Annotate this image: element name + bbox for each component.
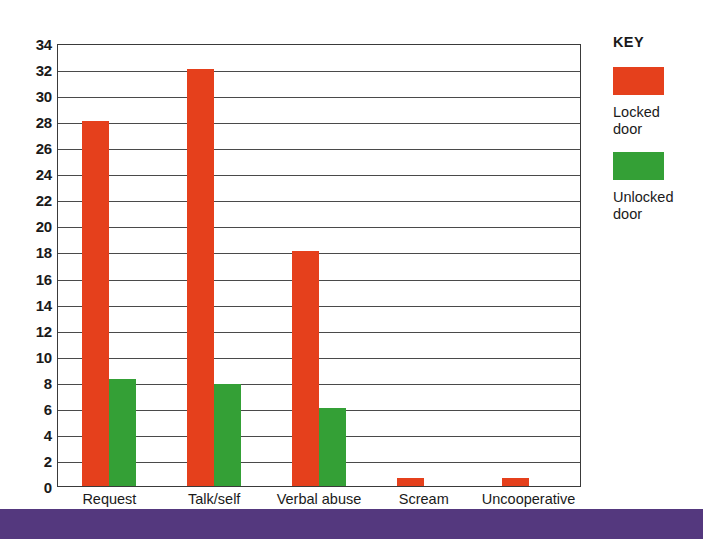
- y-tick-label: 34: [8, 37, 52, 52]
- y-tick-label: 18: [8, 245, 52, 260]
- y-tick-label: 6: [8, 402, 52, 417]
- gridline: [58, 97, 580, 98]
- y-tick-label: 16: [8, 272, 52, 287]
- y-tick-label: 32: [8, 63, 52, 78]
- chart-legend: KEY Lockeddoor Unlockeddoor: [613, 34, 699, 237]
- gridline: [58, 71, 580, 72]
- x-tick-label: Uncooperative: [476, 492, 581, 507]
- gridline: [58, 358, 580, 359]
- gridline: [58, 306, 580, 307]
- x-tick-label: Verbal abuse: [267, 492, 372, 507]
- gridline: [58, 384, 580, 385]
- gridline: [58, 227, 580, 228]
- gridline: [58, 123, 580, 124]
- locked-door-swatch: [613, 67, 664, 95]
- y-tick-label: 30: [8, 89, 52, 104]
- page-footer-band: [0, 509, 703, 539]
- gridline: [58, 436, 580, 437]
- x-tick-label: Scream: [371, 492, 476, 507]
- x-tick-label: Talk/self: [162, 492, 267, 507]
- legend-title: KEY: [613, 34, 699, 50]
- x-tick-label: Request: [57, 492, 162, 507]
- legend-label-unlocked-door: Unlockeddoor: [613, 189, 697, 223]
- y-tick-label: 8: [8, 376, 52, 391]
- gridline: [58, 410, 580, 411]
- y-tick-label: 28: [8, 115, 52, 130]
- y-tick-label: 4: [8, 428, 52, 443]
- gridline: [58, 175, 580, 176]
- y-axis: 0246810121416182022242628303234: [0, 0, 52, 539]
- y-tick-label: 10: [8, 350, 52, 365]
- y-tick-label: 26: [8, 141, 52, 156]
- y-tick-label: 24: [8, 167, 52, 182]
- unlocked-door-swatch: [613, 152, 664, 180]
- legend-label-locked-door: Lockeddoor: [613, 104, 697, 138]
- y-tick-label: 2: [8, 454, 52, 469]
- gridline: [58, 253, 580, 254]
- legend-entry-locked-door: Lockeddoor: [613, 67, 699, 138]
- bar-chart-figure: 0246810121416182022242628303234 RequestT…: [0, 0, 703, 539]
- y-tick-label: 22: [8, 193, 52, 208]
- gridline: [58, 332, 580, 333]
- y-tick-label: 14: [8, 298, 52, 313]
- gridline: [58, 149, 580, 150]
- gridline: [58, 201, 580, 202]
- y-tick-label: 0: [8, 480, 52, 495]
- y-tick-label: 20: [8, 219, 52, 234]
- legend-entry-unlocked-door: Unlockeddoor: [613, 152, 699, 223]
- gridline: [58, 462, 580, 463]
- y-tick-label: 12: [8, 324, 52, 339]
- plot-area: [57, 44, 581, 487]
- gridline: [58, 280, 580, 281]
